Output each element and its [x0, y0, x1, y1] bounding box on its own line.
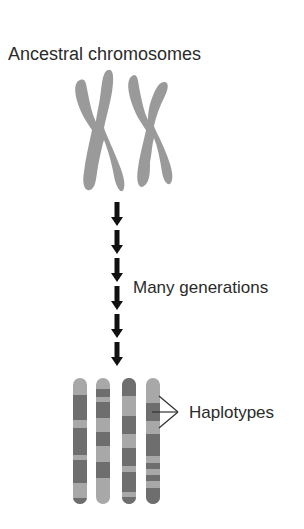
haplotype-chromosome-2: [96, 378, 110, 504]
arrow-down-icon: [111, 286, 123, 310]
ancestral-chromosome-1: [75, 70, 124, 191]
ancestral-chromosome-2: [128, 75, 172, 187]
arrow-down-icon: [111, 230, 123, 254]
generation-arrows: [111, 202, 123, 366]
haplotype-chromosome-3: [122, 378, 136, 504]
many-generations-label: Many generations: [133, 279, 268, 296]
arrow-down-icon: [111, 202, 123, 226]
haplotypes-label: Haplotypes: [189, 404, 274, 421]
arrow-down-icon: [111, 258, 123, 282]
haplotype-chromosome-1: [73, 378, 87, 504]
arrow-down-icon: [111, 314, 123, 338]
haplotype-chromosome-4: [146, 378, 160, 504]
diagram-canvas: [0, 0, 304, 529]
arrow-down-icon: [111, 342, 123, 366]
